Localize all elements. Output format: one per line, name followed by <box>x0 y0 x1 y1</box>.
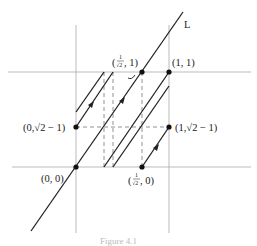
point-one-one <box>166 69 171 74</box>
arc-mark <box>128 75 135 79</box>
svg-text:√2: √2 <box>132 180 138 186</box>
label-inv-sqrt2-zero: ( 1 √2 , 0) <box>128 172 155 187</box>
svg-text:√2: √2 <box>116 62 122 68</box>
segment-mid-2 <box>113 86 169 167</box>
label-one-one: (1, 1) <box>172 57 195 69</box>
label-origin: (0, 0) <box>41 173 64 185</box>
point-zero-sqrt2m1 <box>73 124 78 129</box>
label-zero-sqrt2m1: (0,√2 − 1) <box>23 122 66 134</box>
segment-from-zero-sqrt2m1 <box>76 72 113 127</box>
unit-square-diagram: L (1, 1) (0, 0) (0,√2 − 1) (1,√2 − 1) ( … <box>0 0 257 246</box>
svg-text:1: 1 <box>119 54 122 60</box>
line-L-label: L <box>184 19 190 30</box>
label-inv-sqrt2-one: ( 1 √2 , 1) <box>112 54 139 69</box>
segment-mid-1 <box>104 72 169 167</box>
svg-text:1: 1 <box>135 172 138 178</box>
figure-caption: Figure 4.1 <box>100 236 137 246</box>
label-one-sqrt2m1: (1,√2 − 1) <box>175 122 218 134</box>
point-origin <box>73 164 78 169</box>
marked-points <box>73 69 171 169</box>
svg-text:, 1): , 1) <box>124 57 139 69</box>
point-one-sqrt2m1 <box>166 124 171 129</box>
svg-text:, 0): , 0) <box>140 175 155 187</box>
point-inv-sqrt2-zero <box>139 164 144 169</box>
direction-arrows <box>88 97 159 151</box>
point-inv-sqrt2-one <box>139 69 144 74</box>
